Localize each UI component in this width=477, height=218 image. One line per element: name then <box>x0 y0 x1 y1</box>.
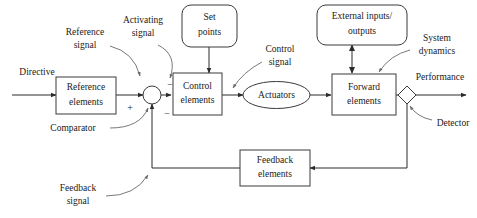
block-external-inputs-outputs[interactable]: External inputs/ outputs <box>317 5 407 45</box>
label-activating-signal-line2: signal <box>132 28 155 38</box>
block-set-points[interactable]: Set points <box>182 5 237 47</box>
leader-feedback-signal <box>106 175 148 196</box>
forward-elements-label-line1: Forward <box>348 82 380 92</box>
feedback-elements-label-line2: elements <box>258 169 292 179</box>
block-feedback-elements[interactable]: Feedback elements <box>240 150 310 186</box>
leader-reference-signal <box>110 46 140 76</box>
node-comparator[interactable] <box>143 86 161 104</box>
label-activating-signal-line1: Activating <box>123 15 163 25</box>
label-control-signal-line2: signal <box>269 57 292 67</box>
label-reference-signal-line1: Reference <box>66 27 105 37</box>
set-points-label-line2: points <box>198 27 222 37</box>
comparator-circle <box>143 86 161 104</box>
feedback-elements-label-line1: Feedback <box>257 155 294 165</box>
label-reference-signal-line2: signal <box>74 40 97 50</box>
label-feedback-signal-line2: signal <box>67 196 90 206</box>
block-control-elements[interactable]: Control elements <box>173 73 222 115</box>
leader-system-dynamics <box>379 50 410 72</box>
label-comparator: Comparator <box>50 123 96 133</box>
comparator-minus-sign-lower: − <box>164 108 170 119</box>
comparator-plus-sign: + <box>127 102 133 113</box>
label-feedback-signal-line1: Feedback <box>60 183 97 193</box>
set-points-label-line1: Set <box>203 12 216 22</box>
node-detector[interactable] <box>398 86 416 104</box>
block-actuators[interactable]: Actuators <box>243 82 310 109</box>
label-detector: Detector <box>437 118 471 128</box>
label-directive: Directive <box>19 67 54 77</box>
forward-elements-label-line2: elements <box>347 96 381 106</box>
actuators-label: Actuators <box>258 90 295 100</box>
control-elements-box <box>173 73 222 115</box>
reference-elements-label-line2: elements <box>69 97 103 107</box>
label-system-dynamics-line2: dynamics <box>419 46 456 56</box>
detector-diamond <box>398 86 416 104</box>
control-elements-label-line2: elements <box>181 95 215 105</box>
leader-detector <box>410 106 432 120</box>
diagram-canvas: Reference elements Control elements Forw… <box>0 0 477 218</box>
leader-activating-signal <box>158 45 172 78</box>
block-forward-elements[interactable]: Forward elements <box>332 74 396 115</box>
label-performance: Performance <box>416 72 465 82</box>
label-system-dynamics-line1: System <box>423 33 452 43</box>
control-system-diagram: Reference elements Control elements Forw… <box>0 0 477 218</box>
forward-elements-box <box>332 74 396 115</box>
reference-elements-label-line1: Reference <box>67 82 106 92</box>
comparator-minus-sign-upper: − <box>167 79 173 90</box>
external-io-label-line1: External inputs/ <box>332 11 393 21</box>
label-control-signal-line1: Control <box>265 44 294 54</box>
external-io-label-line2: outputs <box>348 26 376 36</box>
control-elements-label-line1: Control <box>183 81 212 91</box>
block-reference-elements[interactable]: Reference elements <box>56 77 116 114</box>
